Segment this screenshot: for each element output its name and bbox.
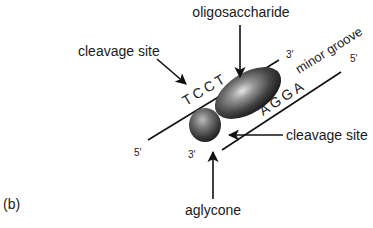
bottom-strand-3prime: 3′ [188, 149, 196, 160]
bottom-strand-5prime: 5′ [350, 53, 358, 64]
cleavage-site-top-arrow [157, 59, 186, 84]
aglycone-sphere [189, 108, 221, 142]
dna-cleavage-diagram: TCCT AGGA minor groove 5′ 3′ 3′ 5′ oligo… [0, 0, 373, 228]
panel-label: (b) [3, 196, 20, 212]
top-strand-3prime: 3′ [286, 49, 294, 60]
aglycone-label: aglycone [185, 202, 241, 218]
oligosaccharide-label: oligosaccharide [192, 4, 289, 20]
top-strand-5prime: 5′ [134, 147, 142, 158]
minor-groove-label: minor groove [293, 24, 365, 77]
cleavage-site-bottom-label: cleavage site [286, 127, 368, 143]
cleavage-site-top-label: cleavage site [78, 43, 160, 59]
